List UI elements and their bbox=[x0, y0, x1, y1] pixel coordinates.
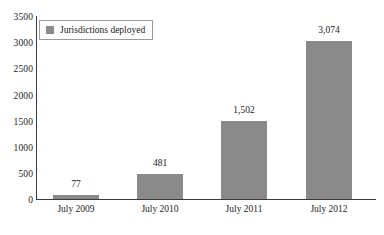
bar-value-label-july-2009: 77 bbox=[71, 179, 81, 190]
bar-july-2011[interactable] bbox=[221, 121, 267, 199]
legend-swatch-icon bbox=[46, 26, 54, 34]
bar-slot-july-2012: 3,074 bbox=[290, 16, 368, 199]
bar-slot-july-2011: 1,502 bbox=[205, 16, 283, 199]
bar-value-label-july-2011: 1,502 bbox=[233, 105, 254, 116]
y-axis-tick-3000: 3000 bbox=[3, 38, 33, 48]
bar-chart: 3500 3000 2500 2000 1500 1000 500 0 77 4… bbox=[0, 0, 384, 235]
y-axis-tick-500: 500 bbox=[3, 169, 33, 179]
bar-july-2012[interactable] bbox=[306, 41, 352, 199]
y-axis-tick-1500: 1500 bbox=[3, 117, 33, 127]
legend-label-jurisdictions-deployed: Jurisdictions deployed bbox=[60, 25, 145, 36]
plot-area: 77 481 1,502 3,074 bbox=[37, 16, 376, 199]
x-axis-label-july-2011: July 2011 bbox=[205, 204, 283, 215]
bar-value-label-july-2010: 481 bbox=[153, 158, 167, 169]
y-axis-tick-3500: 3500 bbox=[3, 12, 33, 22]
chart-legend: Jurisdictions deployed bbox=[39, 20, 153, 40]
bar-july-2009[interactable] bbox=[53, 195, 99, 199]
y-axis-tick-1000: 1000 bbox=[3, 143, 33, 153]
y-axis-tick-2500: 2500 bbox=[3, 64, 33, 74]
bar-value-label-july-2012: 3,074 bbox=[318, 25, 339, 36]
bar-july-2010[interactable] bbox=[137, 174, 183, 199]
bar-slot-july-2010: 481 bbox=[121, 16, 199, 199]
x-axis-label-july-2010: July 2010 bbox=[121, 204, 199, 215]
x-axis-label-july-2012: July 2012 bbox=[290, 204, 368, 215]
x-axis-line bbox=[36, 199, 376, 200]
bar-slot-july-2009: 77 bbox=[37, 16, 115, 199]
y-axis-tick-labels: 3500 3000 2500 2000 1500 1000 500 0 bbox=[0, 0, 33, 235]
y-axis-tick-0: 0 bbox=[3, 195, 33, 205]
y-axis-tick-2000: 2000 bbox=[3, 91, 33, 101]
x-axis-label-july-2009: July 2009 bbox=[37, 204, 115, 215]
